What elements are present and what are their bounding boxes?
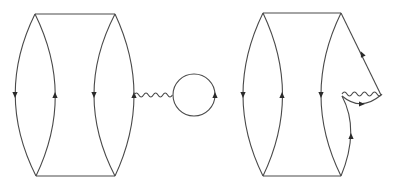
fermion-arc-1 — [15, 14, 36, 176]
arrow-down-icon — [12, 92, 17, 98]
arrow-down-icon — [318, 92, 323, 98]
arrow-right-icon — [359, 101, 365, 106]
fermion-arc-2 — [263, 13, 283, 176]
photon-wavy-line — [134, 93, 172, 97]
fermion-loop — [173, 74, 215, 116]
fermion-arc-4 — [115, 14, 134, 176]
arrow-down-icon — [91, 92, 96, 98]
arrow-up-icon — [52, 92, 57, 98]
feynman-diagrams-figure — [0, 0, 394, 185]
arrow-up-icon — [279, 92, 284, 98]
arrow-up-icon — [348, 133, 353, 139]
fermion-arc-3 — [94, 14, 115, 176]
left-diagram — [12, 14, 217, 176]
arrow-up-icon — [212, 92, 217, 98]
fermion-arc-vertex — [342, 95, 381, 104]
right-diagram — [240, 13, 382, 176]
fermion-arc-2 — [35, 14, 55, 176]
fermion-arc-3 — [321, 13, 341, 176]
arrow-down-icon — [240, 92, 245, 98]
fermion-line-lower — [341, 96, 351, 176]
fermion-arc-1 — [243, 13, 263, 176]
photon-wavy-line — [342, 92, 382, 96]
